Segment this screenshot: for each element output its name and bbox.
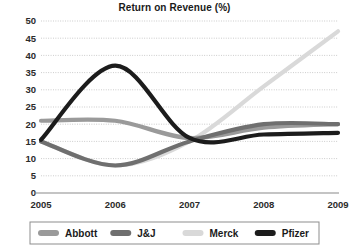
y-axis-tick-label: 15 bbox=[25, 136, 36, 147]
legend-item-merck[interactable]: Merck bbox=[183, 228, 239, 239]
legend-label: Abbott bbox=[65, 228, 98, 239]
x-axis-tick-label: 2008 bbox=[253, 199, 274, 210]
y-axis-tick-label: 45 bbox=[25, 33, 36, 44]
legend-label: Pfizer bbox=[282, 228, 309, 239]
series-line-j-j bbox=[41, 123, 338, 166]
y-axis-tick-label: 40 bbox=[25, 50, 36, 61]
x-axis-tick-label: 2006 bbox=[105, 199, 126, 210]
legend-item-abbott[interactable]: Abbott bbox=[38, 228, 98, 239]
series-line-pfizer bbox=[41, 66, 338, 143]
x-axis-tick-labels: 20052006200720082009 bbox=[30, 199, 348, 210]
legend-item-pfizer[interactable]: Pfizer bbox=[255, 228, 309, 239]
line-chart: 50454035302520151050 2005200620072008200… bbox=[0, 0, 349, 250]
y-axis-tick-label: 10 bbox=[25, 153, 36, 164]
series-lines bbox=[41, 31, 338, 165]
legend-swatch bbox=[110, 230, 131, 236]
legend-label: Merck bbox=[210, 228, 239, 239]
chart-legend: AbbottJ&JMerckPfizer bbox=[30, 222, 319, 244]
series-line-merck bbox=[41, 31, 338, 165]
x-axis-tick-label: 2005 bbox=[30, 199, 52, 210]
x-axis-tick-label: 2007 bbox=[179, 199, 200, 210]
gridlines bbox=[41, 21, 338, 176]
legend-label: J&J bbox=[137, 228, 155, 239]
y-axis-tick-label: 30 bbox=[25, 84, 36, 95]
chart-container: Return on Revenue (%) 504540353025201510… bbox=[0, 0, 349, 250]
legend-swatch bbox=[183, 230, 204, 236]
y-axis-tick-label: 5 bbox=[31, 170, 37, 181]
y-axis-tick-labels: 50454035302520151050 bbox=[25, 15, 36, 198]
y-axis-tick-label: 25 bbox=[25, 101, 36, 112]
y-axis-tick-label: 35 bbox=[25, 67, 36, 78]
legend-swatch bbox=[255, 230, 276, 236]
y-axis-tick-label: 20 bbox=[25, 119, 36, 130]
y-axis-tick-label: 50 bbox=[25, 15, 36, 26]
legend-swatch bbox=[38, 230, 59, 236]
x-axis-tick-label: 2009 bbox=[327, 199, 348, 210]
legend-item-j-j[interactable]: J&J bbox=[110, 228, 155, 239]
